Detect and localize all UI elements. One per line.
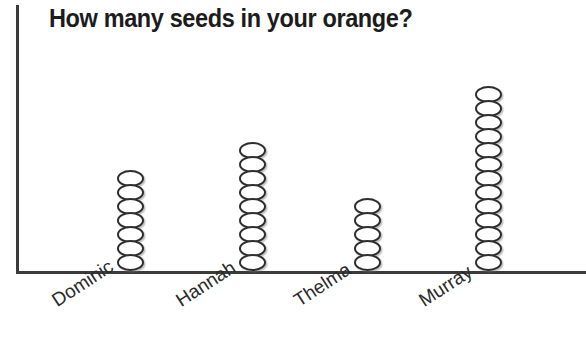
x-axis-label-thelma: Thelma bbox=[290, 258, 355, 311]
plot-area: DominicHannahThelmaMurray bbox=[0, 0, 586, 352]
seed-column-hannah bbox=[232, 145, 272, 271]
seed-column-thelma bbox=[347, 201, 387, 271]
pictograph-chart: How many seeds in your orange? DominicHa… bbox=[0, 0, 586, 352]
seed-column-murray bbox=[468, 89, 508, 271]
x-axis-label-dominic: Dominic bbox=[48, 256, 118, 312]
x-axis-label-hannah: Hannah bbox=[172, 257, 240, 312]
seed-icon bbox=[475, 254, 502, 271]
seed-icon bbox=[354, 254, 381, 271]
seed-icon bbox=[117, 254, 144, 271]
x-axis-label-murray: Murray bbox=[415, 261, 477, 312]
seed-column-dominic bbox=[110, 173, 150, 271]
seed-icon bbox=[239, 254, 266, 271]
